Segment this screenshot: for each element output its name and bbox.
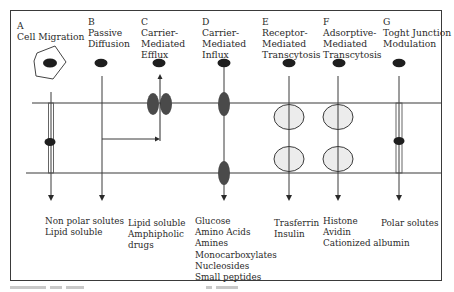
arrow-down-icon <box>221 195 227 201</box>
mechanism-title-line: Carrier- <box>202 27 246 38</box>
mechanism-letter: E <box>262 16 321 27</box>
mechanism-title-line: Toght Junction <box>383 27 451 38</box>
solute-item: Monocarboxylates <box>195 250 277 261</box>
mechanism-letter: A <box>17 20 84 31</box>
mechanism-g-title: G Toght Junction Modulation <box>383 16 451 49</box>
mechanism-e-title: E Receptor- Mediated Transcytosis <box>262 16 321 60</box>
mechanism-title-line: Mediated <box>141 38 185 49</box>
ellipse-molecule-icon <box>218 59 231 67</box>
carrier-protein-icon <box>218 161 230 185</box>
arrow-down-icon <box>396 195 402 201</box>
solute-item: Small peptides <box>195 272 277 283</box>
ellipse-molecule-icon <box>45 138 56 146</box>
mechanism-letter: B <box>88 16 130 27</box>
mechanism-title-line: Transcytosis <box>323 49 382 60</box>
solute-item: Amphipholic <box>128 229 185 240</box>
arrow-down-icon <box>48 195 54 201</box>
mechanism-g-solutes: Polar solutes <box>381 218 438 229</box>
mechanism-title-line: Diffusion <box>88 38 130 49</box>
arrow-down-icon <box>99 195 105 201</box>
ellipse-molecule-icon <box>393 59 406 67</box>
mechanism-d-title: D Carrier- Mediated Influx <box>202 16 246 60</box>
mechanism-d-solutes: Glucose Amino Acids Amines Monocarboxyla… <box>195 216 277 283</box>
mechanism-title-line: Carrier- <box>141 27 185 38</box>
mechanism-a-solutes: Non polar solutes Lipid soluble <box>45 216 124 238</box>
arrow-down-icon <box>335 195 341 201</box>
carrier-protein-icon <box>218 92 230 116</box>
mechanism-a-title: A Cell Migration <box>17 20 84 42</box>
solute-item: Polar solutes <box>381 218 438 229</box>
mechanism-title-line: Cell Migration <box>17 31 84 42</box>
mechanism-title-line: Passive <box>88 27 130 38</box>
mechanism-letter: D <box>202 16 246 27</box>
arrow-right-icon <box>155 137 160 142</box>
solute-item: Amines <box>195 238 277 249</box>
mechanism-letter: G <box>383 16 451 27</box>
mechanism-title-line: Mediated <box>323 38 382 49</box>
mechanism-b-title: B Passive Diffusion <box>88 16 130 49</box>
solute-item: Lipid soluble <box>128 218 185 229</box>
ellipse-molecule-icon <box>333 59 346 67</box>
arrow-down-icon <box>286 195 292 201</box>
mechanism-title-line: Transcytosis <box>262 49 321 60</box>
solute-item: drugs <box>128 240 185 251</box>
mechanism-title-line: Modulation <box>383 38 451 49</box>
mechanism-title-line: Influx <box>202 49 246 60</box>
mechanism-title-line: Mediated <box>202 38 246 49</box>
mechanism-title-line: Adsorptive- <box>323 27 382 38</box>
mechanism-e-solutes: Trasferrin Insulin <box>274 218 319 240</box>
solute-item: Non polar solutes <box>45 216 124 227</box>
solute-item: Cationized albumin <box>323 238 410 249</box>
ellipse-molecule-icon <box>283 59 296 67</box>
carrier-protein-icon <box>147 93 159 115</box>
mechanism-c-title: C Carrier- Mediated Efflux <box>141 16 185 60</box>
mechanism-title-line: Receptor- <box>262 27 321 38</box>
ellipse-molecule-icon <box>95 59 108 67</box>
mechanism-c-solutes: Lipid soluble Amphipholic drugs <box>128 218 185 252</box>
mechanism-letter: C <box>141 16 185 27</box>
mechanism-letter: F <box>323 16 382 27</box>
ellipse-molecule-icon <box>394 137 405 145</box>
ellipse-molecule-icon <box>43 59 57 68</box>
solute-item: Nucleosides <box>195 261 277 272</box>
carrier-protein-icon <box>160 93 172 115</box>
figure-caption-clipped <box>10 286 250 292</box>
mechanism-title-line: Mediated <box>262 38 321 49</box>
solute-item: Lipid soluble <box>45 227 124 238</box>
solute-item: Glucose <box>195 216 277 227</box>
mechanism-title-line: Efflux <box>141 49 185 60</box>
arrow-up-icon <box>158 74 163 79</box>
solute-item: Insulin <box>274 229 319 240</box>
ellipse-molecule-icon <box>153 59 166 67</box>
solute-item: Trasferrin <box>274 218 319 229</box>
mechanism-f-title: F Adsorptive- Mediated Transcytosis <box>323 16 382 60</box>
solute-item: Amino Acids <box>195 227 277 238</box>
